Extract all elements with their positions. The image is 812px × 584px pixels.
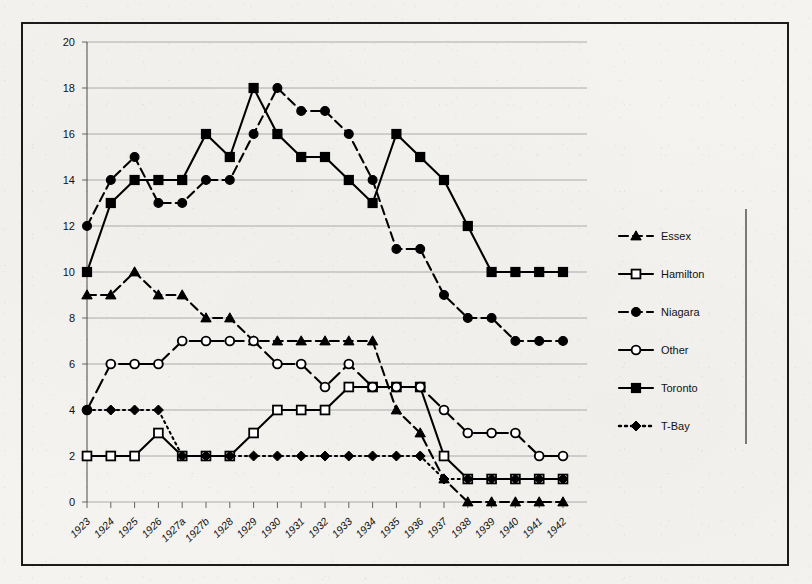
data-point-marker (368, 199, 377, 208)
data-point-marker (225, 337, 234, 346)
x-axis-tick-label: 1940 (496, 515, 521, 540)
x-axis-tick-label: 1932 (305, 515, 330, 540)
data-point-marker (368, 176, 377, 185)
data-point-marker (130, 452, 139, 461)
data-point-marker (416, 153, 425, 162)
data-point-marker (321, 107, 330, 116)
legend-item-niagara[interactable]: Niagara (619, 306, 700, 318)
x-axis-tick-label: 1930 (258, 515, 283, 540)
data-point-marker (297, 153, 306, 162)
y-axis-labels-group: 02468101214161820 (63, 36, 75, 508)
data-point-marker (178, 176, 187, 185)
data-point-marker (367, 336, 377, 345)
series-niagara (83, 84, 568, 346)
data-point-marker (106, 199, 115, 208)
data-point-marker (129, 267, 139, 276)
legend-label: T-Bay (661, 420, 690, 432)
legend-label: Toronto (661, 382, 698, 394)
data-point-marker (249, 451, 259, 461)
data-point-marker (320, 451, 330, 461)
x-axis-tick-label: 1924 (91, 515, 116, 540)
y-axis-tick-label: 18 (63, 82, 75, 94)
data-point-marker (559, 268, 568, 277)
data-point-marker (154, 176, 163, 185)
x-axis-tick-label: 1942 (543, 515, 568, 540)
data-point-marker (321, 383, 330, 392)
data-point-marker (511, 429, 520, 438)
series-t-bay (82, 405, 568, 484)
data-point-marker (273, 130, 282, 139)
series-other (83, 337, 568, 461)
data-point-marker (225, 313, 235, 322)
data-point-marker (392, 130, 401, 139)
legend-label: Other (661, 344, 689, 356)
data-point-marker (130, 176, 139, 185)
data-point-marker (273, 360, 282, 369)
data-point-marker (416, 245, 425, 254)
data-point-marker (392, 245, 401, 254)
data-point-marker (440, 176, 449, 185)
legend-item-toronto[interactable]: Toronto (619, 382, 698, 394)
data-point-marker (559, 452, 568, 461)
data-point-marker (296, 451, 306, 461)
data-point-marker (225, 176, 234, 185)
data-point-marker (344, 360, 353, 369)
series-line (87, 410, 563, 479)
data-point-marker (202, 337, 211, 346)
data-point-marker (344, 130, 353, 139)
legend-marker-icon (632, 346, 641, 355)
series-line (87, 88, 563, 341)
y-axis-tick-label: 20 (63, 36, 75, 48)
y-axis-tick-label: 12 (63, 220, 75, 232)
x-axis-tick-label: 1927b (182, 515, 211, 544)
legend-item-essex[interactable]: Essex (619, 230, 691, 242)
x-axis-tick-label: 1938 (448, 515, 473, 540)
data-point-marker (368, 383, 377, 392)
line-chart-plot: 02468101214161820 19231924192519261927a1… (23, 24, 787, 564)
data-point-marker (463, 314, 472, 323)
legend-item-hamilton[interactable]: Hamilton (619, 268, 704, 280)
data-point-marker (391, 405, 401, 414)
legend-item-t-bay[interactable]: T-Bay (619, 420, 690, 432)
data-point-marker (535, 452, 544, 461)
data-point-marker (321, 153, 330, 162)
data-point-marker (202, 130, 211, 139)
data-point-marker (154, 360, 163, 369)
data-point-marker (83, 268, 92, 277)
x-axis-tick-label: 1937 (424, 514, 450, 540)
y-axis-tick-label: 8 (69, 312, 75, 324)
x-axis-tick-label: 1925 (115, 515, 140, 540)
y-axis-tick-label: 10 (63, 266, 75, 278)
data-point-marker (249, 429, 258, 438)
data-point-marker (130, 153, 139, 162)
chart-frame: 02468101214161820 19231924192519261927a1… (21, 22, 789, 566)
x-axis-tick-label: 1931 (282, 515, 307, 540)
data-point-marker (130, 360, 139, 369)
data-point-marker (535, 268, 544, 277)
y-axis-tick-label: 4 (69, 404, 75, 416)
data-point-marker (297, 406, 306, 415)
x-axis-tick-label: 1934 (353, 515, 378, 540)
legend-marker-icon (632, 270, 641, 279)
data-point-marker (249, 84, 258, 93)
data-point-marker (392, 383, 401, 392)
data-point-marker (487, 429, 496, 438)
data-point-marker (321, 406, 330, 415)
y-axis-tick-label: 0 (69, 496, 75, 508)
data-point-marker (297, 107, 306, 116)
data-point-marker (463, 222, 472, 231)
legend-marker-icon (632, 308, 641, 317)
data-point-marker (440, 291, 449, 300)
data-point-marker (225, 153, 234, 162)
x-axis-labels-group: 19231924192519261927a1927b19281929193019… (67, 514, 568, 544)
data-point-marker (106, 176, 115, 185)
data-point-marker (368, 451, 378, 461)
data-point-marker (559, 337, 568, 346)
data-point-marker (83, 452, 92, 461)
data-point-marker (273, 84, 282, 93)
x-axis-tick-label: 1941 (520, 515, 545, 540)
data-point-marker (249, 130, 258, 139)
data-point-marker (106, 405, 116, 415)
data-point-marker (511, 268, 520, 277)
legend-item-other[interactable]: Other (619, 344, 689, 356)
